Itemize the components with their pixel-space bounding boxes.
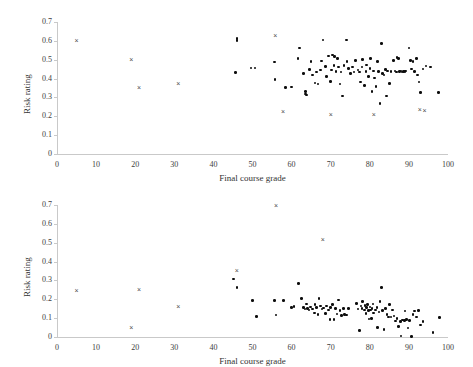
data-point-dot bbox=[397, 325, 400, 328]
data-point-dot bbox=[346, 60, 349, 63]
data-point-dot bbox=[396, 317, 399, 320]
data-point-dot bbox=[333, 64, 336, 67]
data-point-dot bbox=[324, 312, 327, 315]
data-point-dot bbox=[305, 303, 308, 306]
data-point-dot bbox=[390, 70, 393, 73]
data-point-dot bbox=[391, 309, 394, 312]
y-tick-label: 0.7 bbox=[25, 200, 52, 209]
data-point-dot bbox=[302, 72, 305, 75]
x-tick-label: 90 bbox=[395, 160, 423, 169]
data-point-dot bbox=[358, 71, 361, 74]
data-point-dot bbox=[361, 58, 364, 61]
data-point-dot bbox=[297, 57, 300, 60]
data-point-dot bbox=[274, 78, 277, 81]
x-axis-line bbox=[57, 154, 448, 155]
data-point-dot bbox=[337, 66, 340, 69]
data-point-dot bbox=[317, 313, 320, 316]
y-tick-mark bbox=[54, 41, 57, 42]
x-tick-label: 30 bbox=[160, 343, 188, 352]
y-tick-mark bbox=[54, 154, 57, 155]
data-point-dot bbox=[297, 282, 300, 285]
data-point-dot bbox=[367, 75, 370, 78]
x-axis-title: Final course grade bbox=[57, 173, 448, 183]
data-point-cross bbox=[129, 325, 134, 330]
data-point-cross bbox=[320, 237, 325, 242]
y-tick-label: 0.5 bbox=[25, 238, 52, 247]
x-tick-label: 20 bbox=[121, 160, 149, 169]
data-point-dot bbox=[369, 57, 372, 60]
data-point-dot bbox=[373, 77, 376, 80]
data-point-dot bbox=[394, 320, 397, 323]
y-tick-mark bbox=[54, 97, 57, 98]
data-point-dot bbox=[404, 310, 407, 313]
x-tick-label: 60 bbox=[278, 343, 306, 352]
data-point-dot bbox=[376, 326, 379, 329]
data-point-dot bbox=[379, 300, 382, 303]
x-axis-line bbox=[57, 337, 448, 338]
x-tick-label: 70 bbox=[317, 160, 345, 169]
data-point-cross bbox=[137, 85, 142, 90]
data-point-dot bbox=[372, 303, 375, 306]
data-point-dot bbox=[293, 305, 296, 308]
data-point-dot bbox=[351, 66, 354, 69]
data-point-dot bbox=[384, 307, 387, 310]
y-tick-label: 0.6 bbox=[25, 219, 52, 228]
data-point-dot bbox=[336, 57, 339, 60]
y-tick-label: 0 bbox=[25, 332, 52, 341]
x-tick-label: 40 bbox=[199, 160, 227, 169]
data-point-dot bbox=[422, 320, 425, 323]
data-point-dot bbox=[357, 308, 360, 311]
data-point-dot bbox=[329, 318, 332, 321]
data-point-dot bbox=[347, 67, 350, 70]
x-tick-label: 50 bbox=[239, 160, 267, 169]
data-point-dot bbox=[282, 299, 285, 302]
data-point-dot bbox=[305, 94, 308, 97]
data-point-dot bbox=[315, 71, 318, 74]
data-point-dot bbox=[314, 82, 317, 85]
data-point-dot bbox=[388, 303, 391, 306]
data-point-dot bbox=[376, 306, 379, 309]
x-tick-label: 100 bbox=[434, 343, 462, 352]
y-tick-mark bbox=[54, 262, 57, 263]
data-point-dot bbox=[413, 310, 416, 313]
data-point-dot bbox=[335, 70, 338, 73]
y-axis-line bbox=[57, 205, 58, 337]
data-point-dot bbox=[284, 86, 287, 89]
x-tick-label: 10 bbox=[82, 160, 110, 169]
data-point-dot bbox=[341, 95, 344, 98]
data-point-dot bbox=[371, 90, 374, 93]
data-point-dot bbox=[404, 70, 407, 73]
data-point-dot bbox=[273, 299, 276, 302]
y-tick-label: 0.5 bbox=[25, 55, 52, 64]
data-point-dot bbox=[311, 74, 314, 77]
x-tick-label: 0 bbox=[43, 160, 71, 169]
data-point-dot bbox=[329, 306, 332, 309]
data-point-cross bbox=[280, 109, 285, 114]
scatter-chart-top: 00.10.20.30.40.50.60.7010203040506070809… bbox=[0, 0, 473, 183]
data-point-dot bbox=[234, 71, 237, 74]
data-point-cross bbox=[176, 304, 181, 309]
data-point-dot bbox=[361, 300, 364, 303]
data-point-dot bbox=[334, 307, 337, 310]
data-point-dot bbox=[379, 102, 382, 105]
data-point-dot bbox=[365, 64, 368, 67]
data-point-dot bbox=[407, 327, 410, 330]
data-point-dot bbox=[254, 67, 257, 70]
data-point-dot bbox=[383, 74, 386, 77]
data-point-dot bbox=[361, 66, 364, 69]
data-point-dot bbox=[330, 69, 333, 72]
data-point-dot bbox=[422, 68, 425, 71]
data-point-dot bbox=[429, 66, 432, 69]
data-point-dot bbox=[304, 90, 307, 93]
data-point-dot bbox=[415, 57, 418, 60]
data-point-dot bbox=[251, 299, 254, 302]
data-point-dot bbox=[340, 71, 343, 74]
y-axis-line bbox=[57, 22, 58, 154]
data-point-dot bbox=[412, 313, 415, 316]
data-point-dot bbox=[275, 314, 278, 317]
data-point-dot bbox=[388, 82, 391, 85]
data-point-cross bbox=[371, 112, 376, 117]
data-point-dot bbox=[325, 305, 328, 308]
y-tick-mark bbox=[54, 243, 57, 244]
x-tick-label: 10 bbox=[82, 343, 110, 352]
